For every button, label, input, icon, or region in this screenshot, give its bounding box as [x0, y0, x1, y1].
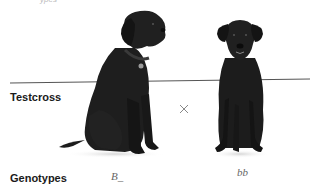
dog-left-image — [55, 8, 170, 158]
dog-right-image — [209, 18, 271, 158]
cropped-caption-fragment: ypes — [40, 0, 57, 4]
genotype-left: B_ — [111, 170, 123, 182]
cross-symbol-icon — [178, 103, 190, 115]
testcross-label: Testcross — [10, 91, 61, 103]
genotype-right: bb — [237, 166, 248, 178]
genotypes-label: Genotypes — [10, 172, 67, 184]
